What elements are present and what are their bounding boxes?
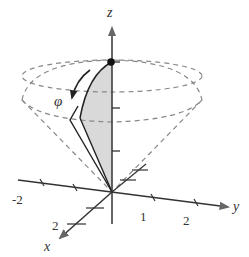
x-tick-label-2: 2 [52, 218, 59, 233]
x-axis [60, 192, 112, 238]
cone-side-right [112, 100, 202, 192]
spherical-cone-diagram: φ z y -2 1 2 x 2 [0, 0, 249, 257]
y-tick-label-neg2: -2 [12, 192, 23, 207]
y-tick-label-1: 1 [140, 209, 147, 224]
x-neg-axis [112, 164, 146, 192]
z-axis-label: z [106, 5, 113, 20]
y-axis-label: y [231, 199, 240, 214]
top-point [107, 58, 115, 66]
y-tick-label-2: 2 [183, 213, 190, 228]
phi-label: φ [54, 93, 62, 109]
shaded-region [80, 62, 112, 192]
x-axis-label: x [43, 239, 51, 254]
